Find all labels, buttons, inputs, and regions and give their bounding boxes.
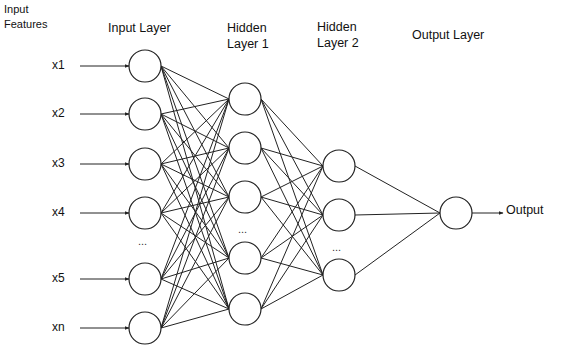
neural-network-diagram: ......... Input Features Input Layer Hid… (0, 0, 564, 360)
connection-line (355, 213, 440, 215)
header-line: Features (4, 17, 47, 32)
input-layer-header: Input Layer (108, 20, 171, 36)
connection-line (261, 275, 323, 309)
input-neuron (129, 148, 161, 180)
connection-line (261, 258, 323, 275)
connection-line (161, 99, 229, 164)
input-feature-label: x5 (52, 271, 65, 285)
hidden1-neuron (229, 293, 261, 325)
input-feature-label: x1 (52, 58, 65, 72)
connection-line (261, 215, 323, 309)
input-neuron (129, 263, 161, 295)
connections (161, 66, 440, 328)
header-line: Hidden (227, 20, 269, 36)
hidden2-ellipsis: ... (332, 241, 341, 253)
input-feature-label: x2 (52, 106, 65, 120)
connection-line (161, 148, 229, 213)
connection-line (161, 66, 229, 309)
input-features-header: Input Features (4, 2, 47, 32)
hidden2-neuron (323, 150, 355, 182)
output-neuron (440, 197, 472, 229)
connection-line (161, 197, 229, 328)
input-feature-label: x4 (52, 205, 65, 219)
output-layer-header: Output Layer (412, 27, 484, 43)
nodes: ......... (129, 50, 472, 344)
hidden1-neuron (229, 242, 261, 274)
connection-line (161, 309, 229, 328)
input-neuron (129, 312, 161, 344)
header-line: Input (4, 2, 47, 17)
input-neuron (129, 197, 161, 229)
hidden2-neuron (323, 259, 355, 291)
hidden2-neuron (323, 199, 355, 231)
connection-line (261, 148, 323, 166)
header-line: Layer 2 (317, 35, 359, 51)
connection-line (355, 213, 440, 275)
network-graph: ......... (0, 0, 564, 360)
hidden-layer-1-header: Hidden Layer 1 (227, 20, 269, 52)
hidden1-neuron (229, 132, 261, 164)
input-feature-label: xn (52, 320, 65, 334)
output-label: Output (506, 203, 544, 217)
input-feature-label: x3 (52, 156, 65, 170)
connection-line (161, 99, 229, 213)
hidden1-ellipsis: ... (238, 223, 247, 235)
hidden-layer-2-header: Hidden Layer 2 (317, 19, 359, 51)
input-neuron (129, 50, 161, 82)
hidden1-neuron (229, 181, 261, 213)
input-neuron (129, 98, 161, 130)
header-line: Layer 1 (227, 36, 269, 52)
connection-line (261, 166, 323, 197)
input-ellipsis: ... (138, 235, 147, 247)
header-line: Hidden (317, 19, 359, 35)
connection-line (355, 166, 440, 213)
hidden1-neuron (229, 83, 261, 115)
connection-line (161, 148, 229, 328)
